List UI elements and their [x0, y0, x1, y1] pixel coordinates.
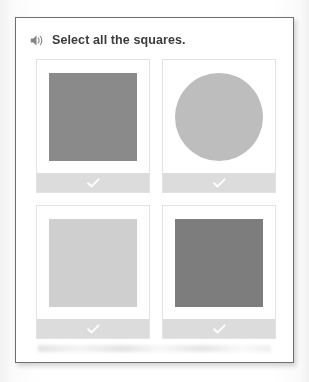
- tile-bottom-left[interactable]: [36, 205, 150, 339]
- shape-area: [37, 60, 149, 173]
- speaker-icon[interactable]: [30, 34, 45, 47]
- tile-selected-bar: [163, 173, 275, 192]
- shape-square: [49, 219, 137, 307]
- tile-grid: [36, 59, 276, 339]
- captcha-panel: Select all the squares.: [15, 17, 294, 363]
- prompt-row: Select all the squares.: [30, 31, 186, 49]
- tile-top-left[interactable]: [36, 59, 150, 193]
- speaker-icon-glyph: [30, 34, 45, 47]
- shape-circle: [175, 73, 263, 161]
- shape-square: [175, 219, 263, 307]
- tile-selected-bar: [163, 319, 275, 338]
- shape-area: [37, 206, 149, 319]
- shape-area: [163, 60, 275, 173]
- check-icon: [87, 178, 100, 188]
- shape-area: [163, 206, 275, 319]
- tile-selected-bar: [37, 319, 149, 338]
- check-icon: [213, 178, 226, 188]
- prompt-text: Select all the squares.: [52, 33, 186, 47]
- tile-top-right[interactable]: [162, 59, 276, 193]
- shape-square: [49, 73, 137, 161]
- check-icon: [87, 324, 100, 334]
- tile-selected-bar: [37, 173, 149, 192]
- tile-bottom-right[interactable]: [162, 205, 276, 339]
- page-background: Select all the squares.: [0, 0, 309, 382]
- check-icon: [213, 324, 226, 334]
- blurred-caption-strip: [38, 345, 271, 352]
